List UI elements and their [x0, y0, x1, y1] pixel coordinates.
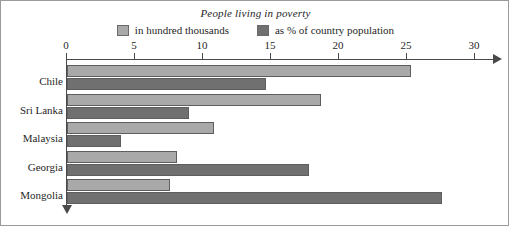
bar	[67, 164, 309, 176]
x-axis-tick-label: 0	[63, 39, 69, 51]
x-axis-tick-label: 5	[131, 39, 137, 51]
x-axis-tick	[338, 53, 339, 59]
bar	[67, 107, 189, 119]
category-label: Malaysia	[1, 132, 63, 144]
bar	[67, 135, 121, 147]
bar	[67, 94, 321, 106]
x-axis-tick-label: 25	[401, 39, 412, 51]
bar	[67, 179, 170, 191]
x-axis-tick	[202, 53, 203, 59]
bar	[67, 192, 442, 204]
x-axis-tick-label: 20	[333, 39, 344, 51]
plot-area: 051015202530 ChileSri LankaMalaysiaGeorg…	[1, 1, 509, 226]
x-axis-tick-label: 15	[265, 39, 276, 51]
x-axis-tick	[270, 53, 271, 59]
bar	[67, 78, 266, 90]
category-label: Mongolia	[1, 189, 63, 201]
x-axis-tick	[66, 53, 67, 59]
bar	[67, 122, 214, 134]
x-axis-tick	[474, 53, 475, 59]
category-label: Chile	[1, 75, 63, 87]
x-axis-tick-label: 10	[197, 39, 208, 51]
category-label: Sri Lanka	[1, 104, 63, 116]
category-label: Georgia	[1, 161, 63, 173]
x-axis-line	[66, 59, 496, 60]
bar	[67, 65, 411, 77]
x-axis-arrow-icon	[493, 54, 502, 64]
x-axis-tick	[406, 53, 407, 59]
x-axis-tick-label: 30	[469, 39, 480, 51]
chart-figure: People living in poverty in hundred thou…	[0, 0, 509, 226]
bar	[67, 151, 177, 163]
y-axis-arrow-icon	[62, 205, 72, 214]
x-axis-tick	[134, 53, 135, 59]
